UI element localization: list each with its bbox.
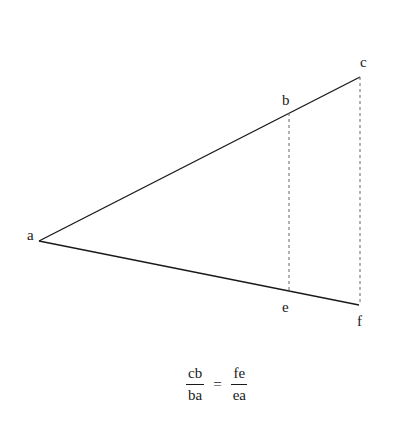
right-numerator: fe <box>231 366 247 385</box>
right-fraction: fe ea <box>231 366 248 403</box>
segment-a-c <box>39 77 360 241</box>
left-denominator: ba <box>186 385 204 403</box>
right-denominator: ea <box>231 385 248 403</box>
segment-a-f <box>39 241 359 305</box>
left-numerator: cb <box>186 366 204 385</box>
point-label-f: f <box>357 314 362 329</box>
left-fraction: cb ba <box>186 366 204 403</box>
ratio-formula: cb ba = fe ea <box>186 366 248 403</box>
point-label-c: c <box>360 55 367 70</box>
point-label-b: b <box>282 93 290 108</box>
point-label-a: a <box>27 228 34 243</box>
similar-triangles-diagram <box>0 0 407 429</box>
point-label-e: e <box>282 300 289 315</box>
equals-sign: = <box>213 376 221 393</box>
